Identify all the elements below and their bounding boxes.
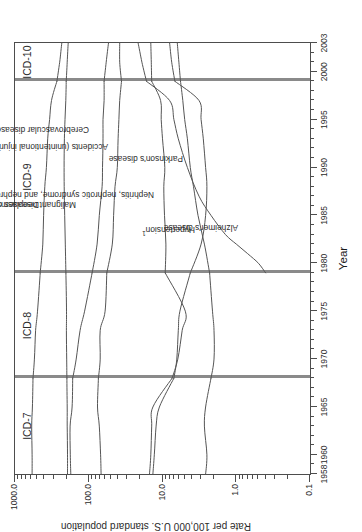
curve-nephritis-nephrotic-syndrome-and-nephrosis xyxy=(165,273,186,378)
x-tick-minor xyxy=(311,377,314,378)
y-tick-minor xyxy=(287,475,288,479)
y-tick-minor xyxy=(247,475,248,479)
x-tick-minor xyxy=(311,301,314,302)
x-tick-minor xyxy=(311,339,314,340)
x-tick-minor xyxy=(311,272,314,273)
curve-alzheimer-s-disease xyxy=(138,43,146,81)
curve-parkinson-s-disease xyxy=(181,81,210,273)
series-label-cerebrovascular-diseases: Cerebrovascular diseases xyxy=(0,125,89,135)
x-tick-minor xyxy=(311,329,314,330)
series-curves xyxy=(15,43,310,474)
x-tick-minor xyxy=(311,224,314,225)
y-tick-minor xyxy=(257,475,258,479)
y-tick-minor xyxy=(99,475,100,479)
x-tick-minor xyxy=(311,61,314,62)
x-tick-minor xyxy=(311,320,314,321)
curve-diseases-of-heart xyxy=(33,273,40,378)
curve-cerebrovascular-diseases xyxy=(73,273,92,378)
y-tick-minor xyxy=(25,475,26,479)
x-tick xyxy=(311,262,317,263)
y-tick-minor xyxy=(165,475,166,479)
curve-diseases-of-heart xyxy=(40,81,57,273)
x-tick-minor xyxy=(311,90,314,91)
x-tick-minor xyxy=(311,80,314,81)
x-tick-minor xyxy=(311,157,314,158)
y-tick-minor xyxy=(95,475,96,479)
series-label-nephritis-nephrotic-syndrome-and-nephrosis: Nephritis, nephrotic syndrome, and nephr… xyxy=(0,190,154,200)
curve-cerebrovascular-diseases xyxy=(104,43,108,81)
y-tick-minor xyxy=(213,475,214,479)
series-label-parkinson-s-disease: Parkinson's disease xyxy=(109,154,183,164)
curve-diseases-of-heart xyxy=(57,43,62,81)
x-tick-minor xyxy=(311,425,314,426)
y-tick-minor xyxy=(265,475,266,479)
curve-accidents-unintentional-injuries xyxy=(98,273,106,378)
x-tick-minor xyxy=(311,138,314,139)
y-tick-minor xyxy=(53,475,54,479)
y-tick-label: 0.1 xyxy=(304,484,314,496)
x-tick-label: 1990 xyxy=(319,158,329,177)
x-tick-minor xyxy=(311,99,314,100)
curve-malignant-neoplasms xyxy=(64,81,66,273)
x-tick-minor xyxy=(311,253,314,254)
y-tick-minor xyxy=(66,475,67,479)
x-tick-minor xyxy=(311,147,314,148)
x-tick-label: 1975 xyxy=(319,302,329,321)
x-tick xyxy=(311,42,317,43)
y-tick-minor xyxy=(126,475,127,479)
x-tick-minor xyxy=(311,52,314,53)
footnote-marker: 1 xyxy=(142,230,146,237)
y-tick-label: 100.0 xyxy=(83,484,93,505)
x-tick-minor xyxy=(311,396,314,397)
plot-area: ICD-7ICD-8ICD-9ICD-10 Diseases of heartM… xyxy=(14,42,311,475)
curve-cerebrovascular-diseases xyxy=(70,378,73,474)
x-tick-minor xyxy=(311,195,314,196)
y-tick-minor xyxy=(184,475,185,479)
x-tick-minor xyxy=(311,291,314,292)
curve-cerebrovascular-diseases xyxy=(92,81,104,273)
y-tick-minor xyxy=(239,475,240,479)
x-tick-label: 1958 xyxy=(319,465,329,484)
y-tick-minor xyxy=(178,475,179,479)
x-tick-minor xyxy=(311,243,314,244)
x-tick-label: 1965 xyxy=(319,398,329,417)
curve-accidents-unintentional-injuries xyxy=(107,81,122,273)
x-tick xyxy=(311,310,317,311)
x-tick-minor xyxy=(311,368,314,369)
y-tick-minor xyxy=(110,475,111,479)
x-tick xyxy=(311,358,317,359)
curve-hypertension xyxy=(174,273,190,378)
x-tick-minor xyxy=(311,349,314,350)
x-tick-minor xyxy=(311,387,314,388)
curve-nephritis-nephrotic-syndrome-and-nephrosis xyxy=(151,43,152,81)
x-tick-minor xyxy=(311,186,314,187)
curve-nephritis-nephrotic-syndrome-and-nephrosis xyxy=(150,378,173,474)
y-axis-title: Rate per 100,000 U.S. standard populatio… xyxy=(60,521,250,532)
y-tick-minor xyxy=(139,475,140,479)
curve-accidents-unintentional-injuries xyxy=(120,43,122,81)
y-tick-minor xyxy=(117,475,118,479)
y-tick-major xyxy=(162,475,163,482)
x-tick-minor xyxy=(311,205,314,206)
x-tick-minor xyxy=(311,109,314,110)
y-tick-minor xyxy=(169,475,170,479)
curve-malignant-neoplasms xyxy=(66,273,67,378)
y-tick-minor xyxy=(191,475,192,479)
series-label-alzheimer-s-disease: Alzheimer's disease xyxy=(164,223,238,233)
x-tick xyxy=(311,119,317,120)
y-tick-minor xyxy=(30,475,31,479)
x-tick xyxy=(311,71,317,72)
x-tick xyxy=(311,167,317,168)
x-tick-label: 1960 xyxy=(319,445,329,464)
x-tick xyxy=(311,454,317,455)
x-tick-label: 1985 xyxy=(319,206,329,225)
y-tick-minor xyxy=(91,475,92,479)
curve-malignant-neoplasms xyxy=(66,43,68,81)
y-tick-minor xyxy=(252,475,253,479)
curve-hypertension xyxy=(153,378,174,474)
y-tick-major xyxy=(88,475,89,482)
x-tick-minor xyxy=(311,176,314,177)
x-tick xyxy=(311,406,317,407)
